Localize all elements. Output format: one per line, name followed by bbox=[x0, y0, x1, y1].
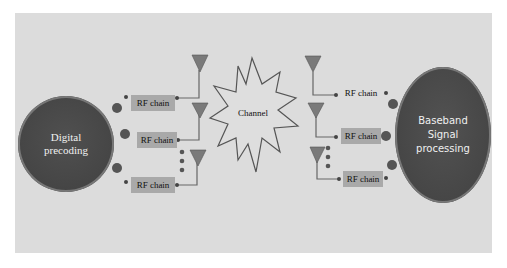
rx-rf-chain-2: RF chain bbox=[341, 128, 381, 144]
rx-ellipsis-dots bbox=[326, 146, 331, 169]
rx-antenna-icons bbox=[305, 56, 325, 163]
tx-antenna-group bbox=[177, 70, 199, 185]
baseband-label-line3: processing bbox=[416, 142, 470, 156]
digital-precoding-label-line2: precoding bbox=[44, 144, 88, 157]
baseband-signal-processing-node: Baseband Signal processing bbox=[395, 67, 491, 203]
tx-ellipsis-dots bbox=[180, 150, 185, 173]
tx-rf-chain-1: RF chain bbox=[131, 95, 175, 111]
tx-rf-chain-2: RF chain bbox=[137, 132, 177, 148]
baseband-label-line1: Baseband bbox=[416, 114, 470, 128]
channel-label: Channel bbox=[228, 108, 278, 118]
tx-rf-chain-3: RF chain bbox=[131, 177, 175, 193]
digital-precoding-node: Digital precoding bbox=[18, 96, 114, 192]
rx-rf-chain-1: RF chain bbox=[340, 86, 382, 100]
digital-precoding-label-line1: Digital bbox=[44, 131, 88, 144]
rx-rf-chain-3: RF chain bbox=[343, 171, 383, 187]
baseband-label-line2: Signal bbox=[416, 128, 470, 142]
